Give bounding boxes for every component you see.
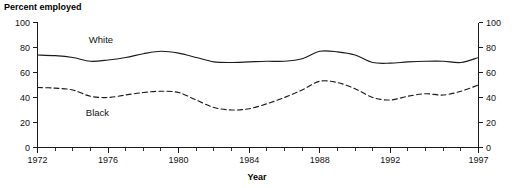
y-axis-tick-label-left: 40 [20, 93, 30, 103]
y-axis-tick-label-right: 40 [486, 93, 496, 103]
series-label-group: WhiteBlack [86, 34, 113, 118]
x-axis-tick-label: 1984 [239, 155, 259, 165]
chart-canvas: Percent employed 020406080100 0204060801… [0, 0, 518, 188]
x-axis-tick-label: 1988 [310, 155, 330, 165]
right-axis-tick-group: 020406080100 [479, 18, 502, 153]
y-axis-tick-label-left: 100 [15, 18, 30, 28]
y-axis-tick-label-left: 60 [20, 68, 30, 78]
x-axis-tick-label: 1980 [169, 155, 189, 165]
y-axis-tick-label-left: 20 [20, 118, 30, 128]
y-axis-tick-label-right: 20 [486, 118, 496, 128]
y-axis-title: Percent employed [4, 2, 82, 12]
y-axis-tick-label-right: 80 [486, 43, 496, 53]
y-axis-tick-label-left: 80 [20, 43, 30, 53]
x-axis-tick-group: 1972197619801984198819921997 [27, 148, 488, 166]
series-label-white: White [89, 34, 113, 45]
x-axis-tick-label: 1976 [98, 155, 118, 165]
series-label-black: Black [86, 107, 109, 118]
x-axis-tick-label: 1992 [380, 155, 400, 165]
data-series-group [38, 51, 479, 110]
series-line-black [38, 81, 479, 110]
series-line-white [38, 51, 479, 64]
y-axis-tick-label-right: 60 [486, 68, 496, 78]
left-axis-tick-group: 020406080100 [15, 18, 38, 153]
x-axis-tick-label: 1997 [468, 155, 488, 165]
y-axis-tick-label-right: 0 [486, 143, 491, 153]
y-axis-tick-label-right: 100 [486, 18, 501, 28]
employment-rate-line-chart: Percent employed 020406080100 0204060801… [0, 0, 518, 188]
y-axis-tick-label-left: 0 [25, 143, 30, 153]
x-axis-tick-label: 1972 [27, 155, 47, 165]
x-axis-title: Year [247, 172, 267, 182]
